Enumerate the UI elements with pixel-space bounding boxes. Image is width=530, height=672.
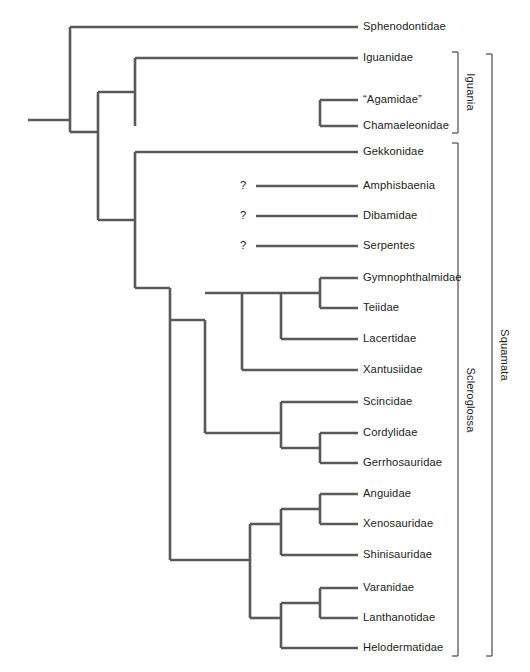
clade-label: Iguania bbox=[464, 73, 475, 110]
tip-label: Sphenodontidae bbox=[363, 21, 446, 32]
tip-label: Xantusiidae bbox=[363, 364, 423, 375]
clade-label: Scleroglossa bbox=[464, 367, 475, 432]
tip-label: Xenosauridae bbox=[363, 518, 433, 529]
tip-label: Serpentes bbox=[363, 240, 415, 251]
uncertain-placement-marker: ? bbox=[240, 210, 246, 221]
uncertain-placement-marker: ? bbox=[240, 180, 246, 191]
tip-label: Gekkonidae bbox=[363, 146, 424, 157]
tip-label: Iguanidae bbox=[363, 52, 413, 63]
tip-label: Scincidae bbox=[363, 396, 412, 407]
tip-label: “Agamidae” bbox=[363, 94, 422, 105]
tip-label: Helodermatidae bbox=[363, 642, 443, 653]
tip-label: Cordylidae bbox=[363, 427, 417, 438]
tip-label: Teiidae bbox=[363, 302, 399, 313]
tip-label: Gymnophthalmidae bbox=[363, 272, 462, 283]
tip-label: Varanidae bbox=[363, 582, 414, 593]
uncertain-placement-marker: ? bbox=[240, 240, 246, 251]
tip-label: Amphisbaenia bbox=[363, 180, 435, 191]
cladogram-figure: SphenodontidaeIguanidae“Agamidae”Chamael… bbox=[0, 0, 530, 672]
clade-label: Squamata bbox=[498, 329, 509, 381]
tip-label: Shinisauridae bbox=[363, 549, 432, 560]
tip-label: Lacertidae bbox=[363, 333, 416, 344]
tip-label: Chamaeleonidae bbox=[363, 120, 449, 131]
tip-label: Gerrhosauridae bbox=[363, 457, 442, 468]
tip-label: Dibamidae bbox=[363, 210, 417, 221]
tree-branches bbox=[0, 0, 530, 672]
tip-label: Lanthanotidae bbox=[363, 612, 435, 623]
tip-label: Anguidae bbox=[363, 488, 411, 499]
